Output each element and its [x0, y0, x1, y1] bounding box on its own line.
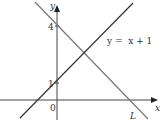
y-tick-label-4: 4 — [48, 22, 54, 32]
line-y-equals-x-plus-1 — [20, 3, 133, 118]
origin-label: 0 — [50, 103, 56, 113]
y-tick-label-1: 1 — [48, 79, 54, 89]
line-label-y-equals-x-plus-1: y = x + 1 — [106, 36, 152, 46]
x-axis-label: x — [155, 103, 160, 113]
line-L — [35, 2, 148, 119]
coordinate-diagram: y x 0 4 1 y = x + 1 L — [0, 0, 160, 123]
y-axis-label: y — [49, 1, 56, 11]
line-label-L: L — [129, 111, 136, 121]
x-axis — [0, 97, 158, 103]
